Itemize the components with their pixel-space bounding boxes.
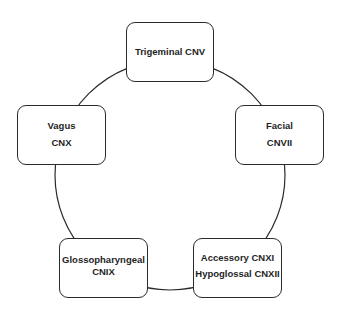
node-hypoglossal-label: Hypoglossal CNXII xyxy=(195,269,279,280)
node-glossopharyngeal-code: CNIX xyxy=(92,267,115,278)
node-vagus-code: CNX xyxy=(51,138,71,149)
node-glossopharyngeal-name: Glossopharyngeal xyxy=(62,255,145,266)
node-facial: Facial CNVII xyxy=(235,105,324,165)
node-facial-name: Facial xyxy=(266,121,293,132)
node-trigeminal: Trigeminal CNV xyxy=(126,22,214,82)
node-glossopharyngeal: Glossopharyngeal CNIX xyxy=(59,238,148,298)
node-vagus-name: Vagus xyxy=(48,121,76,132)
node-facial-code: CNVII xyxy=(267,138,292,149)
node-vagus: Vagus CNX xyxy=(17,105,106,165)
node-accessory-label: Accessory CNXI xyxy=(201,253,274,264)
node-accessory-hypoglossal: Accessory CNXI Hypoglossal CNXII xyxy=(193,238,282,298)
node-trigeminal-label: Trigeminal CNV xyxy=(135,47,205,58)
